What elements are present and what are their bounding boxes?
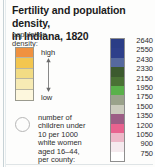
circle-legend-caption: number of children under 10 per 1000 whi… [38, 114, 100, 164]
colorbar-swatch-4 [111, 77, 124, 86]
county-circle-symbol-icon [15, 117, 30, 132]
colorbar-value-10: 1050 [128, 130, 153, 139]
density-ramp-band-2 [16, 69, 33, 79]
population-density-ramp [15, 47, 34, 101]
colorbar-swatch-7 [111, 105, 124, 114]
colorbar-swatch-11 [111, 142, 124, 151]
colorbar-value-11: 900 [128, 139, 153, 148]
colorbar-swatch-5 [111, 86, 124, 95]
density-legend-heading: population density: [12, 31, 82, 48]
density-ramp-low-label: low [41, 93, 52, 102]
colorbar-swatch-3 [111, 67, 124, 76]
colorbar-value-0: 2640 [128, 36, 153, 45]
colorbar-swatch-0 [111, 39, 124, 48]
colorbar-value-4: 2150 [128, 74, 153, 83]
density-ramp-band-1 [16, 58, 33, 68]
page-gutter-rule [3, 0, 4, 167]
map-legend-panel: Fertility and population density, in Ind… [0, 0, 155, 167]
colorbar-value-5: 1950 [128, 83, 153, 92]
colorbar-value-2: 2430 [128, 55, 153, 64]
fertility-class-colorbar [110, 38, 125, 162]
colorbar-value-7: 1500 [128, 102, 153, 111]
density-ramp-band-0 [16, 48, 33, 58]
density-direction-arrow-icon [44, 58, 53, 92]
colorbar-swatch-1 [111, 48, 124, 57]
colorbar-swatch-2 [111, 58, 124, 67]
colorbar-value-8: 1350 [128, 111, 153, 120]
density-ramp-band-3 [16, 79, 33, 89]
colorbar-value-6: 1750 [128, 92, 153, 101]
colorbar-swatch-10 [111, 133, 124, 142]
colorbar-value-9: 1200 [128, 121, 153, 130]
colorbar-swatch-6 [111, 95, 124, 104]
colorbar-value-12: 750 [128, 149, 153, 158]
colorbar-swatch-8 [111, 114, 124, 123]
density-ramp-band-4 [16, 90, 33, 100]
page-title-line1: Fertility and population density, [12, 4, 126, 29]
density-ramp-high-label: high [41, 48, 55, 57]
colorbar-swatch-12 [111, 152, 124, 161]
circle-legend-caption-line-5: per county: [38, 155, 75, 164]
colorbar-value-3: 2330 [128, 64, 153, 73]
colorbar-value-1: 2550 [128, 45, 153, 54]
page-gutter-rule-secondary [5, 0, 6, 167]
colorbar-swatch-9 [111, 124, 124, 133]
fertility-class-value-labels: 2640255024302330215019501750150013501200… [128, 36, 153, 158]
